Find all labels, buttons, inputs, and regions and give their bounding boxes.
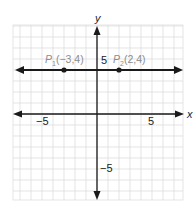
point-p2 xyxy=(116,67,121,72)
grid xyxy=(13,25,183,200)
y-axis-label: y xyxy=(94,12,102,24)
coordinate-plane: x y −5 5 5 −5 P1(−3,4) P2(2,4) xyxy=(0,0,195,203)
line-y-equals-4 xyxy=(15,66,183,74)
p1-label-coords: (−3,4) xyxy=(56,53,84,65)
x-axis-left-arrow-icon xyxy=(13,111,22,118)
x-tick-label-5: 5 xyxy=(148,115,154,127)
y-axis-down-arrow-icon xyxy=(94,191,101,200)
x-tick-label-neg5: −5 xyxy=(36,115,49,127)
y-tick-label-5: 5 xyxy=(101,54,107,66)
p2-label-main: P xyxy=(113,53,120,65)
y-tick-label-neg5: −5 xyxy=(100,162,113,174)
p1-label-main: P xyxy=(45,53,52,65)
y-axis-up-arrow-icon xyxy=(94,26,101,35)
p2-label-coords: (2,4) xyxy=(124,53,146,65)
point-p1 xyxy=(61,67,66,72)
x-axis-label: x xyxy=(186,108,193,120)
point-p1-label: P1(−3,4) xyxy=(45,53,84,67)
line-left-arrow-icon xyxy=(15,66,24,74)
point-p2-label: P2(2,4) xyxy=(113,53,146,67)
x-axis-right-arrow-icon xyxy=(175,111,184,118)
line-right-arrow-icon xyxy=(174,66,183,74)
